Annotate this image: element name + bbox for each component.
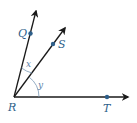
point-t [105,95,109,99]
label-s: S [58,38,66,51]
label-t: T [103,102,112,115]
point-s [51,42,55,46]
ray-rq [14,11,36,97]
label-angle-x: x [26,59,31,69]
angle-diagram: Q S T R x y [0,0,137,123]
label-angle-y: y [37,80,44,90]
label-r: R [7,101,16,114]
label-q: Q [18,27,27,40]
point-q [28,31,32,35]
